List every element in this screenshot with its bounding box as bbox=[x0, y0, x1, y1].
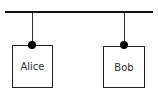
alice-connection-dot bbox=[28, 41, 36, 49]
bob-connection-dot bbox=[120, 41, 128, 49]
bob-label: Bob bbox=[114, 62, 133, 73]
bus-line bbox=[5, 11, 153, 13]
alice-label: Alice bbox=[20, 61, 44, 72]
bob-node: Bob bbox=[103, 46, 145, 88]
alice-node: Alice bbox=[12, 45, 53, 88]
